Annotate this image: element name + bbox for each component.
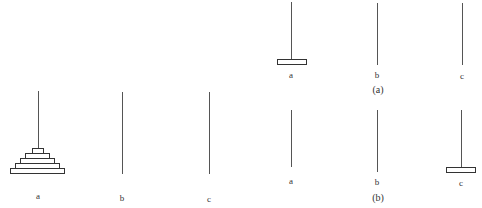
peg-b [122,92,123,174]
caption-a: (a) [372,84,383,95]
disc-1 [32,148,44,154]
peg-label-a: a [289,70,293,80]
peg-c [461,110,462,167]
peg-a [291,2,292,59]
peg-c [462,3,463,65]
peg-label-c: c [459,178,463,188]
peg-label-a: a [289,176,293,186]
peg-b [377,110,378,172]
caption-b: (b) [372,192,384,203]
peg-c [209,92,210,174]
peg-label-a: a [36,191,40,201]
disc [446,167,476,173]
peg-a [291,110,292,167]
peg-a [38,91,39,148]
disc [277,59,307,65]
peg-label-b: b [375,70,380,80]
peg-label-b: b [120,193,125,203]
peg-label-c: c [207,194,211,204]
peg-label-b: b [375,177,380,187]
peg-label-c: c [460,71,464,81]
peg-b [377,3,378,65]
